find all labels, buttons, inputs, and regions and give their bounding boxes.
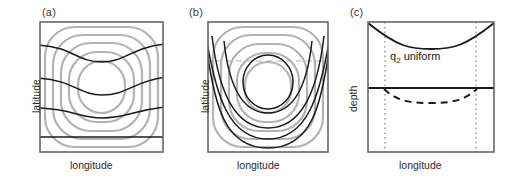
panel-b-letter: (b)	[189, 6, 203, 18]
panel-b-contours	[205, 27, 331, 148]
figure-container: (a) (b) (c) longitude longitude longitud…	[0, 0, 513, 181]
panel-c-yaxis-label: depth	[347, 86, 359, 112]
panel-a-group	[38, 22, 166, 152]
panel-a-letter: (a)	[42, 6, 56, 18]
panel-b-yaxis-label: latitude	[199, 79, 211, 113]
panel-a-xaxis-label: longitude	[70, 159, 113, 171]
panel-c-lower-dashed-interface	[384, 89, 477, 103]
panel-c-xaxis-label: longitude	[399, 159, 442, 171]
panel-a-yaxis-label: latitude	[30, 79, 42, 113]
panel-a-contours	[38, 27, 166, 147]
panel-b-group	[205, 22, 331, 152]
q2-uniform-word: uniform	[401, 50, 441, 62]
panel-b-frame	[208, 22, 328, 152]
panel-c-q2-uniform-annotation: q2 uniform	[390, 50, 440, 62]
figure-canvas	[0, 0, 513, 181]
panel-c-group	[368, 22, 494, 152]
panel-c-upper-interface	[368, 23, 494, 49]
q2-subscript: 2	[396, 56, 400, 65]
panel-c-frame	[368, 22, 494, 152]
gray-contour-set-a	[45, 27, 158, 147]
panel-b-xaxis-label: longitude	[237, 159, 280, 171]
panel-c-letter: (c)	[350, 6, 363, 18]
panel-c-curves	[368, 22, 494, 152]
panel-a-frame	[40, 22, 163, 152]
